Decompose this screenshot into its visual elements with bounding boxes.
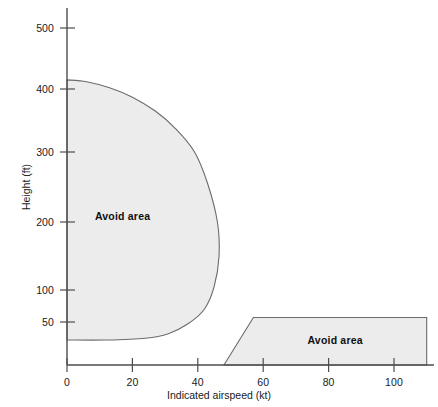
x-axis-tick-label: 20 <box>126 376 138 388</box>
y-axis-tick-label: 300 <box>0 146 54 158</box>
x-axis-tick-label: 0 <box>64 376 70 388</box>
chart-plot-area <box>0 0 438 407</box>
y-axis-title: Height (ft) <box>20 164 32 210</box>
y-axis-tick-label: 400 <box>0 83 54 95</box>
x-axis-title: Indicated airspeed (kt) <box>0 389 438 401</box>
y-axis-tick-label: 50 <box>0 316 54 328</box>
avoid-area-label: Avoid area <box>95 210 150 222</box>
y-axis-tick-label: 100 <box>0 284 54 296</box>
chart-container: 50100200300400500 020406080100 Avoid are… <box>0 0 438 407</box>
x-axis-tick-label: 80 <box>323 376 335 388</box>
x-axis-tick-label: 100 <box>385 376 403 388</box>
y-axis-tick-label: 500 <box>0 22 54 34</box>
y-axis-tick-label: 200 <box>0 216 54 228</box>
x-axis-tick-label: 40 <box>192 376 204 388</box>
avoid-area-label: Avoid area <box>307 334 362 346</box>
x-axis-tick-label: 60 <box>257 376 269 388</box>
